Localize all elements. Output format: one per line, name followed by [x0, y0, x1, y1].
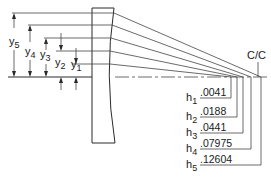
label-h3: h3	[186, 126, 197, 141]
ray-out-1	[110, 64, 231, 77]
ray-out-4	[112, 25, 251, 77]
label-h4: h4	[186, 142, 197, 157]
label-y3: y3	[40, 48, 51, 63]
label-h5: h5	[186, 158, 197, 173]
label-y2: y2	[55, 56, 66, 71]
value-h5: .12604	[200, 153, 232, 165]
label-y5: y5	[9, 35, 20, 50]
label-h2: h2	[186, 110, 197, 125]
label-h1: h1	[186, 91, 197, 106]
lens-element	[92, 8, 115, 143]
label-y1: y1	[71, 58, 82, 73]
value-h4: .07975	[200, 137, 232, 149]
value-h2: .0188	[200, 105, 226, 117]
value-h3: .0441	[200, 121, 226, 133]
label-y4: y4	[25, 45, 36, 60]
focal-label: C/C	[247, 49, 266, 61]
value-h1: .0041	[200, 86, 226, 98]
lens-aberration-diagram: y5 y4 y3 y2 y1 C/C h1 h2 h3 h4 h5 .0041 …	[0, 0, 271, 184]
ray-out-2	[110, 51, 237, 77]
